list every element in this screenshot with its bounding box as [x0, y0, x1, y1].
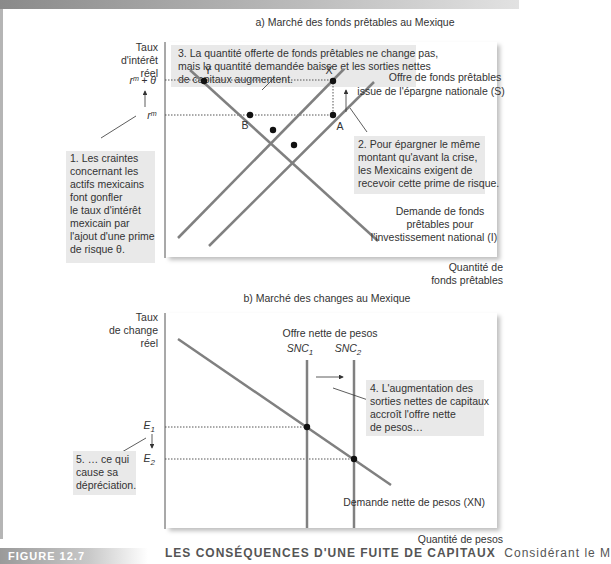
svg-text:concernant les: concernant les — [70, 165, 138, 177]
callout-1-pointer — [101, 116, 136, 138]
point-a-label: A — [336, 120, 343, 132]
point-x-label: X — [325, 64, 332, 76]
point-b-label: B — [241, 119, 248, 131]
svg-text:font gonfler: font gonfler — [70, 191, 123, 203]
tick-e1: E1 — [144, 419, 155, 434]
svg-text:de risque θ.: de risque θ. — [70, 243, 125, 255]
callout-5-pointer — [122, 438, 146, 452]
svg-text:issue de l'épargne nationale (: issue de l'épargne nationale (S) — [357, 85, 504, 97]
svg-text:2. Pour épargner le même: 2. Pour épargner le même — [358, 138, 480, 150]
svg-text:le taux d'intérêt: le taux d'intérêt — [70, 204, 141, 216]
panel-b-x-axis-label: Quantité de pesos — [418, 533, 503, 545]
svg-text:dépréciation.: dépréciation. — [76, 479, 136, 491]
svg-text:3. La quantité offerte de fond: 3. La quantité offerte de fonds prêtable… — [178, 47, 438, 59]
figure-caption: LES CONSÉQUENCES D'UNE FUITE DE CAPITAUX… — [165, 546, 611, 560]
svg-text:actifs mexicains: actifs mexicains — [70, 178, 144, 190]
panel-a-x-axis-label: Quantité de fonds prêtables — [431, 261, 503, 286]
figure-number-tag: FIGURE 12.7 — [0, 548, 148, 564]
tick-rm: rᵐ — [147, 109, 156, 121]
point-e2 — [351, 456, 357, 462]
svg-text:de change: de change — [109, 324, 158, 336]
svg-text:Demande de fonds: Demande de fonds — [396, 205, 485, 217]
svg-text:4. L'augmentation des: 4. L'augmentation des — [370, 382, 473, 394]
svg-text:Quantité de: Quantité de — [449, 261, 503, 273]
svg-text:montant qu'avant la crise,: montant qu'avant la crise, — [358, 151, 477, 163]
panel-b-y-axis-label: Taux de change réel — [109, 311, 159, 349]
svg-text:l'ajout d'une prime: l'ajout d'une prime — [70, 230, 155, 242]
net-supply-title: Offre nette de pesos — [283, 327, 378, 339]
caption-text: Considérant le M — [504, 546, 611, 560]
tick-rm-theta: rᵐ + θ — [130, 74, 157, 86]
caption-title: LES CONSÉQUENCES D'UNE FUITE DE CAPITAUX — [165, 546, 496, 560]
svg-text:d'intérêt: d'intérêt — [121, 54, 158, 66]
svg-text:les Mexicains exigent de: les Mexicains exigent de — [358, 164, 473, 176]
svg-text:Offre de fonds prêtables: Offre de fonds prêtables — [389, 71, 501, 83]
svg-text:1. Les craintes: 1. Les craintes — [70, 152, 138, 164]
svg-text:Taux: Taux — [136, 311, 159, 323]
svg-text:prêtables pour: prêtables pour — [406, 218, 474, 230]
svg-text:fonds prêtables: fonds prêtables — [431, 274, 503, 286]
point-e1 — [304, 424, 310, 430]
svg-text:recevoir cette prime de risque: recevoir cette prime de risque. — [358, 177, 499, 189]
svg-text:5. … ce qui: 5. … ce qui — [76, 453, 129, 465]
point-y-label: Y — [204, 64, 211, 76]
svg-text:de pesos…: de pesos… — [370, 421, 423, 433]
svg-text:Taux: Taux — [136, 41, 159, 53]
svg-text:réel: réel — [140, 337, 158, 349]
svg-text:mexicain par: mexicain par — [70, 217, 130, 229]
tick-e2: E2 — [144, 452, 156, 467]
net-demand-label: Demande nette de pesos (XN) — [343, 496, 485, 508]
panel-a-title: a) Marché des fonds prêtables au Mexique — [255, 16, 454, 28]
svg-text:cause sa: cause sa — [76, 466, 118, 478]
svg-text:l'investissement national (I): l'investissement national (I) — [371, 231, 497, 243]
svg-text:sorties nettes de capitaux: sorties nettes de capitaux — [370, 395, 490, 407]
svg-text:accroît l'offre nette: accroît l'offre nette — [370, 408, 456, 420]
panel-b-title: b) Marché des changes au Mexique — [244, 292, 411, 304]
